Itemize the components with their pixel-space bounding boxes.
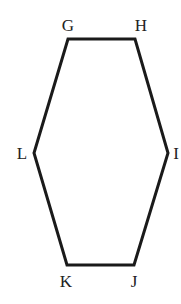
vertex-label-g: G xyxy=(62,16,74,35)
vertex-label-j: J xyxy=(131,272,138,291)
vertex-label-h: H xyxy=(135,16,147,35)
hexagon-diagram: G H I J K L xyxy=(0,0,181,304)
vertex-label-k: K xyxy=(60,272,73,291)
hexagon-shape xyxy=(34,39,168,265)
vertex-label-i: I xyxy=(173,144,179,163)
vertex-label-l: L xyxy=(17,144,27,163)
